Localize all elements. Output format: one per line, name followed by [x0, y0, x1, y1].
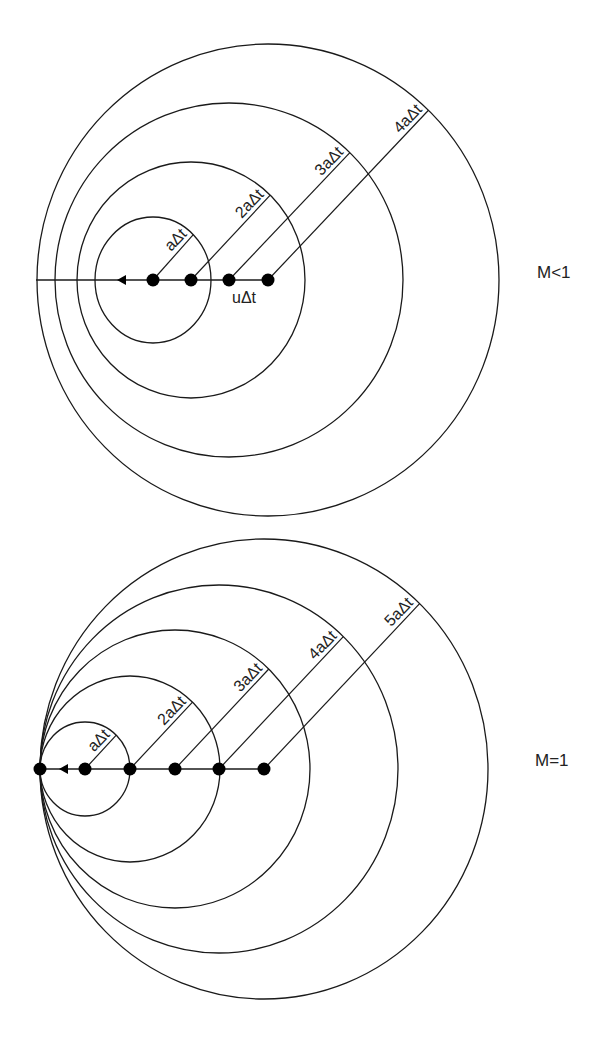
wave-radius-line	[175, 669, 269, 769]
radius-label: 5aΔt	[381, 594, 416, 630]
velocity-displacement-label: uΔt	[232, 289, 257, 306]
source-point	[169, 763, 182, 776]
source-point	[223, 274, 236, 287]
source-point	[258, 763, 271, 776]
wave-radius-line	[268, 110, 428, 280]
source-point	[79, 763, 92, 776]
radius-label: 4aΔt	[390, 100, 425, 136]
radius-label: 2aΔt	[154, 692, 189, 728]
wave-radius-line	[191, 195, 270, 280]
radius-label: 3aΔt	[230, 659, 265, 695]
sonic-wavefront-diagram: 5aΔt4aΔt3aΔt2aΔtaΔt	[34, 539, 489, 999]
source-point	[124, 763, 137, 776]
radius-label: aΔt	[161, 225, 190, 254]
sound-wave-diagram: 4aΔt3aΔt2aΔtaΔt 5aΔt4aΔt3aΔt2aΔtaΔt M<1 …	[0, 0, 612, 1040]
radius-label: 3aΔt	[311, 143, 346, 179]
case-label-subsonic: M<1	[537, 263, 571, 282]
case-label-sonic: M=1	[535, 751, 569, 770]
source-point	[147, 274, 160, 287]
direction-arrow-icon	[117, 275, 126, 285]
source-point	[185, 274, 198, 287]
source-point	[213, 763, 226, 776]
subsonic-wavefront-diagram: 4aΔt3aΔt2aΔtaΔt	[36, 44, 499, 516]
direction-arrow-icon	[59, 764, 68, 774]
radius-label: 2aΔt	[232, 185, 267, 221]
current-source-point	[34, 763, 47, 776]
source-point	[262, 274, 275, 287]
radius-label: 4aΔt	[305, 627, 340, 663]
